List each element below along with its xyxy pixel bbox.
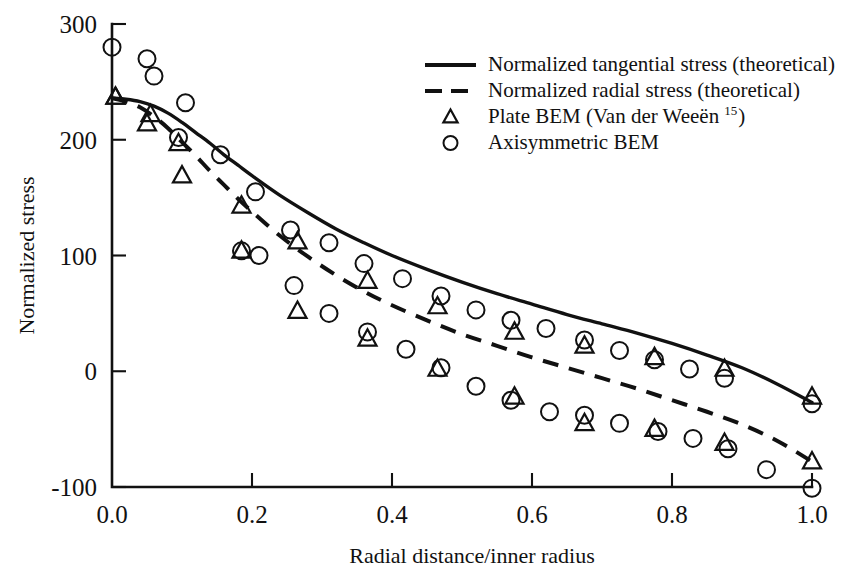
y-tick-label: -100 [51,474,97,501]
legend-label: Normalized tangential stress (theoretica… [488,52,835,76]
legend-item: Plate BEM (Van der Weeën15) [443,103,745,128]
chart-figure: 3002001000-1000.00.20.40.60.81.0 Radial … [0,0,847,574]
legend-label: Normalized radial stress (theoretical) [488,78,800,102]
x-tick-label: 0.2 [236,501,267,528]
y-tick-label: 200 [60,127,98,154]
x-tick-label: 0.8 [656,501,687,528]
legend-label: Axisymmetric BEM [488,130,659,154]
normalized-stress-chart: 3002001000-1000.00.20.40.60.81.0 Radial … [0,0,847,574]
y-axis-title: Normalized stress [14,176,39,334]
x-tick-label: 0.0 [96,501,127,528]
x-tick-label: 1.0 [796,501,827,528]
x-tick-label: 0.4 [376,501,408,528]
legend-label: Plate BEM (Van der Weeën15) [488,103,745,128]
x-axis-title: Radial distance/inner radius [349,543,595,568]
y-tick-label: 0 [85,358,98,385]
y-tick-label: 100 [60,243,98,270]
x-tick-label: 0.6 [516,501,547,528]
y-tick-label: 300 [60,11,98,38]
